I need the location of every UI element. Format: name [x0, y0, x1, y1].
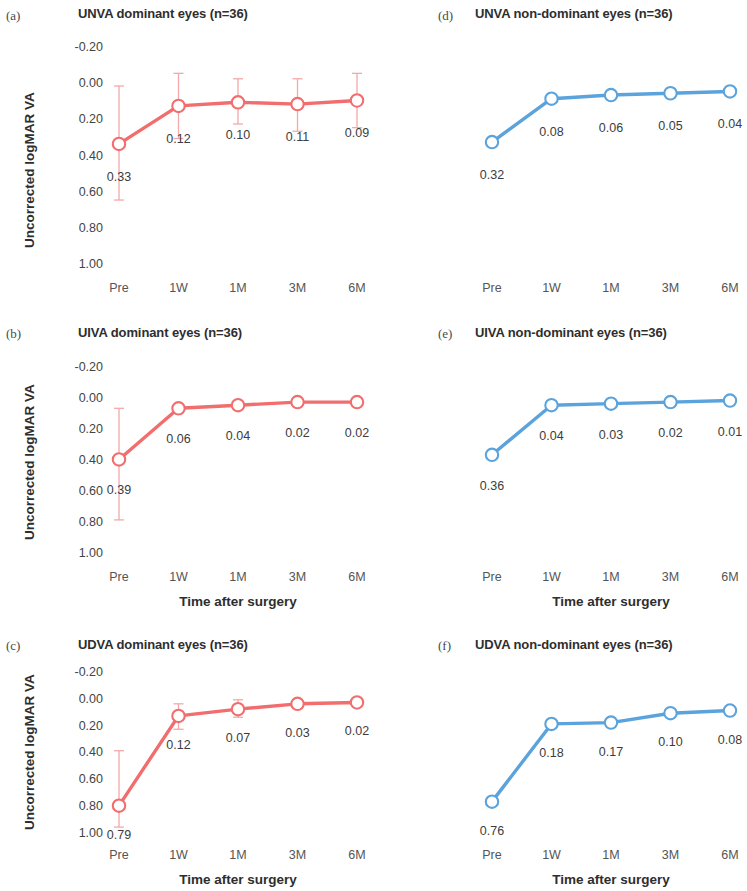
x-tick-label: 3M — [645, 848, 697, 862]
x-tick-label: 1M — [585, 848, 637, 862]
data-point-label: 0.08 — [704, 733, 747, 747]
panel-tag-f: (f) — [438, 638, 451, 654]
x-axis-title: Time after surgery — [533, 872, 689, 887]
x-tick-label: 1W — [526, 848, 578, 862]
x-tick-label: Pre — [466, 848, 518, 862]
data-point-label: 0.76 — [466, 824, 518, 838]
data-point-marker — [664, 707, 676, 719]
data-point-label: 0.10 — [645, 735, 697, 749]
panel-title-f: UDVA non-dominant eyes (n=36) — [475, 637, 673, 652]
data-point-marker — [486, 795, 498, 807]
data-point-label: 0.18 — [526, 746, 578, 760]
data-point-marker — [605, 716, 617, 728]
x-tick-label: 6M — [704, 848, 747, 862]
data-point-label: 0.17 — [585, 745, 637, 759]
data-point-marker — [724, 704, 736, 716]
data-point-marker — [545, 718, 557, 730]
